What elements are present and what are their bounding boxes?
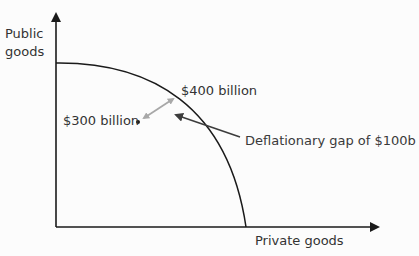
point-300-label: $300 billion <box>63 113 139 129</box>
gap-double-arrow <box>144 99 173 118</box>
y-axis-label-line2: goods <box>5 43 44 61</box>
deflationary-gap-label: Deflationary gap of $100b <box>245 133 416 149</box>
x-axis-label: Private goods <box>255 233 344 249</box>
y-axis-label: Public goods <box>5 25 44 61</box>
y-axis-label-line1: Public <box>5 25 44 43</box>
annotation-pointer-arrow <box>176 115 240 137</box>
point-400-label: $400 billion <box>181 83 257 99</box>
